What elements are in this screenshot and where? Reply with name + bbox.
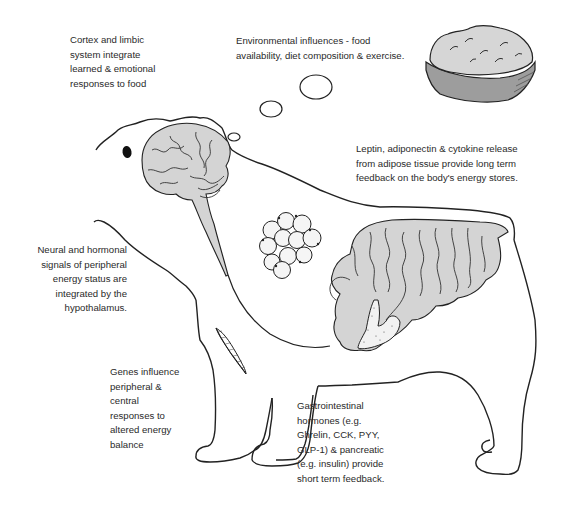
dog-eye <box>122 145 133 158</box>
food-bowl-icon <box>426 26 535 102</box>
genes-label: Genes influence peripheral & central res… <box>110 365 179 453</box>
dna-helix-icon <box>216 328 246 374</box>
thought-bubbles <box>200 75 332 143</box>
vagus-nerve-line <box>228 275 330 348</box>
adipocyte-cluster-icon <box>260 213 322 279</box>
adipose-label: Leptin, adiponectin & cytokine release f… <box>356 142 518 186</box>
hypothalamus-label: Neural and hormonal signals of periphera… <box>14 243 127 316</box>
cortex-label: Cortex and limbic system integrate learn… <box>70 33 155 91</box>
brain-icon <box>142 123 230 276</box>
gastrointestinal-label: Gastrointestinal hormones (e.g. Ghrelin,… <box>297 399 384 487</box>
environment-label: Environmental influences - food availabi… <box>236 34 404 63</box>
gut-icon <box>330 219 508 351</box>
